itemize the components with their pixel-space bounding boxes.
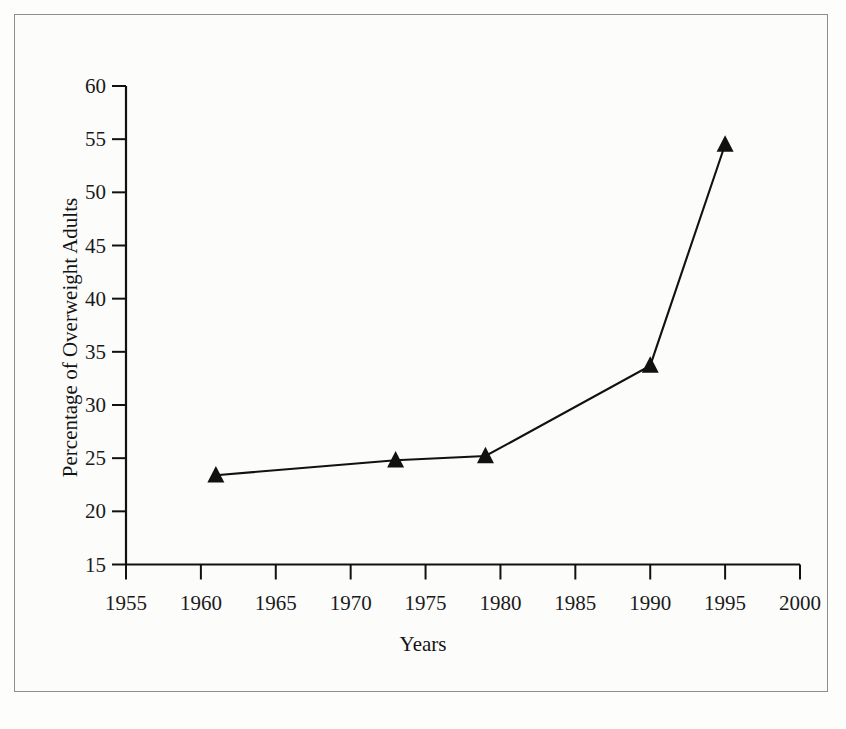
- x-tick-label: 1990: [629, 593, 671, 614]
- x-tick-label: 1960: [180, 593, 222, 614]
- x-tick-label: 1975: [405, 593, 447, 614]
- y-axis-ticks: [112, 86, 126, 565]
- x-tick-label: 1965: [255, 593, 297, 614]
- y-tick-label: 15: [60, 554, 106, 575]
- data-point-markers: [207, 135, 733, 482]
- x-tick-label: 2000: [779, 593, 821, 614]
- line-chart-plot: [0, 0, 846, 729]
- x-tick-label: 1955: [105, 593, 147, 614]
- axes: [126, 86, 800, 565]
- data-point-marker: [477, 447, 494, 464]
- x-axis-title: Years: [0, 632, 846, 657]
- x-tick-label: 1970: [330, 593, 372, 614]
- chart-figure: 15202530354045505560 1955196019651970197…: [0, 0, 846, 729]
- data-point-marker: [642, 356, 659, 373]
- data-point-marker: [717, 135, 734, 152]
- x-tick-label: 1995: [704, 593, 746, 614]
- data-series-line: [216, 144, 725, 475]
- x-tick-label: 1985: [554, 593, 596, 614]
- y-axis-title: Percentage of Overweight Adults: [58, 138, 83, 538]
- x-axis-ticks: [126, 565, 800, 580]
- y-tick-label: 60: [60, 76, 106, 97]
- x-tick-label: 1980: [479, 593, 521, 614]
